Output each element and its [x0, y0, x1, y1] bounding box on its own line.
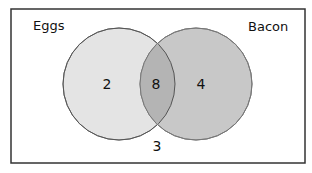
bacon-only-count: 4 — [197, 76, 206, 92]
venn-diagram: Eggs Bacon 2 8 4 3 — [0, 0, 312, 173]
eggs-only-count: 2 — [103, 76, 112, 92]
eggs-label: Eggs — [33, 18, 65, 33]
intersection-count: 8 — [152, 76, 161, 92]
outside-count: 3 — [153, 138, 162, 154]
bacon-label: Bacon — [248, 19, 288, 34]
